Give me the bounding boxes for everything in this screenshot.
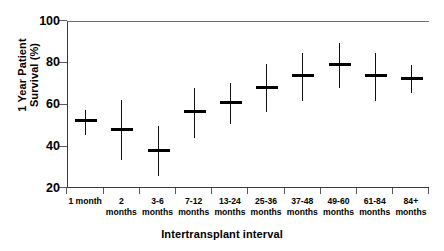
y-tick-label-100: 100 bbox=[26, 15, 60, 28]
x-tick-0 bbox=[66, 188, 67, 194]
x-tick-1 bbox=[103, 188, 104, 194]
data-point-9 bbox=[401, 77, 423, 80]
data-point-6 bbox=[292, 74, 314, 77]
data-point-7 bbox=[329, 63, 351, 66]
x-tick-10 bbox=[428, 188, 429, 194]
x-tick-8 bbox=[356, 188, 357, 194]
data-layer bbox=[68, 22, 429, 187]
x-tick-2 bbox=[139, 188, 140, 194]
x-tick-3 bbox=[175, 188, 176, 194]
plot-area bbox=[67, 21, 429, 188]
data-point-2 bbox=[148, 149, 170, 152]
survival-chart: 1 Year Patient Survival (%) 20406080100 … bbox=[0, 0, 444, 251]
data-point-8 bbox=[365, 74, 387, 77]
data-point-4 bbox=[220, 101, 242, 104]
data-point-1 bbox=[111, 128, 133, 131]
data-point-5 bbox=[256, 86, 278, 89]
x-tick-5 bbox=[247, 188, 248, 194]
data-point-3 bbox=[184, 110, 206, 113]
x-tick-6 bbox=[284, 188, 285, 194]
x-tick-4 bbox=[211, 188, 212, 194]
x-category-label-9: 84+months bbox=[381, 196, 441, 218]
y-tick-label-80: 80 bbox=[26, 56, 60, 69]
y-tick-label-40: 40 bbox=[26, 140, 60, 153]
x-axis-title: Intertransplant interval bbox=[0, 228, 444, 240]
x-tick-9 bbox=[392, 188, 393, 194]
y-tick-label-60: 60 bbox=[26, 98, 60, 111]
data-point-0 bbox=[75, 119, 97, 122]
y-tick-label-20: 20 bbox=[26, 182, 60, 195]
x-tick-7 bbox=[320, 188, 321, 194]
